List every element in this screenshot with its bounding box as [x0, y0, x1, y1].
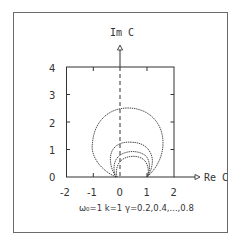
x-tick-0: 0 — [117, 187, 123, 198]
y-tick-3: 3 — [49, 90, 55, 101]
curve-gamma-0.2 — [92, 108, 163, 177]
x-tick-1: 1 — [144, 187, 150, 198]
curve-gamma-0.6 — [114, 152, 150, 177]
y-tick-2: 2 — [49, 118, 55, 129]
x-axis-label: Re C — [204, 172, 228, 183]
plot-canvas: Im C Re C 4 3 2 1 0 -2 -1 0 1 2 ω₀=1 k=1… — [0, 0, 242, 243]
im-axis-arrow-icon — [118, 45, 123, 50]
x-tick-minus1: -1 — [87, 187, 97, 198]
y-tick-0: 0 — [49, 172, 55, 183]
nyquist-curves — [92, 108, 163, 177]
curve-gamma-0.8 — [116, 156, 148, 177]
re-axis-arrow-icon — [195, 175, 200, 180]
y-tick-1: 1 — [49, 145, 55, 156]
y-axis-label: Im C — [110, 27, 134, 38]
y-tick-4: 4 — [49, 63, 55, 74]
x-tick-minus2: -2 — [60, 187, 70, 198]
x-tick-2: 2 — [171, 187, 177, 198]
parameter-caption: ω₀=1 k=1 γ=0.2,0.4,...,0.8 — [79, 203, 194, 213]
